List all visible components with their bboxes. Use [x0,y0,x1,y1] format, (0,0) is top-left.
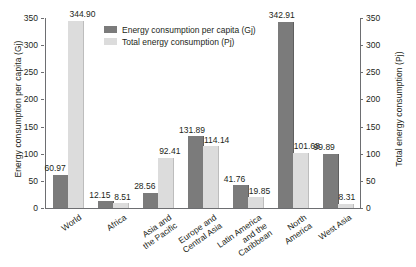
tick-label-left-300: 300 [12,41,38,50]
tick-label-left-350: 350 [12,14,38,23]
tick-mark-left-350 [41,18,44,19]
tick-label-left-150: 150 [12,123,38,132]
bar-total [68,21,84,208]
tick-mark-left-300 [41,45,44,46]
bar-value-label: 12.15 [89,191,110,200]
bar-value-label: 19.85 [249,187,270,196]
tick-label-left-0: 0 [12,204,38,213]
tick-label-left-100: 100 [12,150,38,159]
bar-total [203,146,219,208]
bar-value-label: 99.89 [314,143,335,152]
legend-label-primary: Energy consumption per capita (Gj) [122,25,256,35]
bar-total [338,204,354,209]
bar-per-capita [188,136,204,208]
legend-item-primary: Energy consumption per capita (Gj) [104,24,256,35]
tick-label-right-50: 50 [366,177,392,186]
y-axis-right-ticks: 050100150200250300350 [366,0,392,267]
bar-value-label: 92.41 [159,147,180,156]
bar-total [293,153,309,208]
bar-value-label: 342.91 [269,11,295,20]
tick-label-right-200: 200 [366,95,392,104]
tick-label-right-100: 100 [366,150,392,159]
bar-value-label: 131.89 [179,126,205,135]
bar-per-capita [143,193,159,209]
bar-per-capita [278,22,294,208]
bar-group: 99.898.31 [315,18,360,208]
tick-mark-left-200 [41,99,44,100]
bar-value-label: 8.31 [339,193,356,202]
bar-chart: Energy consumption per capita (Gj) Total… [0,0,416,267]
bar-per-capita [233,185,249,208]
bar-group: 60.97344.90 [46,18,91,208]
bar-value-label: 41.76 [224,175,245,184]
bar-per-capita [98,201,114,208]
x-axis-line [45,208,361,209]
tick-label-left-250: 250 [12,68,38,77]
tick-mark-left-250 [41,72,44,73]
bar-value-label: 60.97 [44,164,65,173]
tick-label-right-0: 0 [366,204,392,213]
tick-label-right-150: 150 [366,123,392,132]
bar-per-capita [53,175,69,208]
tick-mark-left-50 [41,181,44,182]
legend-item-secondary: Total energy consumption (Pj) [104,36,256,47]
chart-legend: Energy consumption per capita (Gj) Total… [104,24,256,48]
tick-label-right-350: 350 [366,14,392,23]
tick-mark-left-150 [41,127,44,128]
tick-mark-left-0 [41,208,44,209]
legend-swatch-icon-primary [104,26,117,33]
y-axis-right-title: Total energy consumption (Pj) [394,19,404,199]
tick-mark-left-100 [41,154,44,155]
legend-label-secondary: Total energy consumption (Pj) [122,37,234,47]
y-axis-right-line [360,18,361,209]
tick-label-right-250: 250 [366,68,392,77]
bar-value-label: 28.56 [134,182,155,191]
legend-swatch-icon-secondary [104,38,117,45]
bar-total [248,197,264,208]
tick-label-left-50: 50 [12,177,38,186]
bar-value-label: 8.51 [114,193,131,202]
bar-total [158,158,174,208]
y-axis-left-ticks: 050100150200250300350 [12,0,38,267]
tick-label-right-300: 300 [366,41,392,50]
bar-per-capita [323,154,339,208]
tick-label-left-200: 200 [12,95,38,104]
bar-total [113,203,129,208]
bar-group: 342.91101.68 [270,18,315,208]
